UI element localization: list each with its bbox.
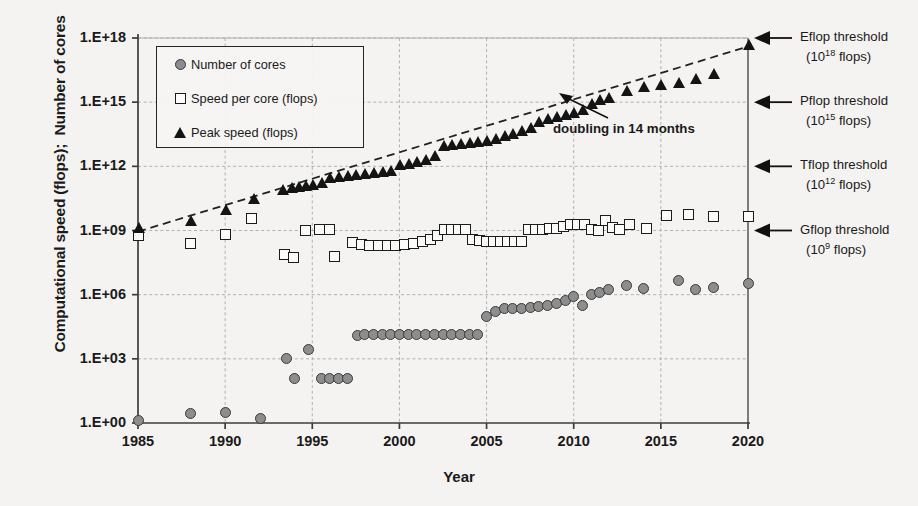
chart-canvas: Computational speed (flops); Number of c… [0, 0, 918, 506]
data-point-circle-gray [743, 278, 754, 289]
x-tick-label: 2020 [718, 433, 778, 449]
x-tick-label: 2000 [369, 433, 429, 449]
data-point-square-open [614, 224, 625, 235]
data-point-circle-gray [220, 407, 231, 418]
x-axis-title: Year [0, 468, 918, 485]
data-point-square-open [288, 252, 299, 263]
data-point-circle-gray [303, 344, 314, 355]
legend-label-number-of-cores: Number of cores [191, 57, 286, 72]
chart-legend: Number of cores Speed per core (flops) P… [156, 46, 364, 148]
data-point-square-open [516, 236, 527, 247]
y-tick-label: 1.E+12 [48, 157, 126, 173]
data-point-triangle-filled [603, 92, 615, 103]
threshold-label-pflop: Pflop threshold(1015 flops) [800, 92, 888, 129]
data-point-square-open [324, 224, 335, 235]
legend-label-speed-per-core: Speed per core (flops) [191, 91, 318, 106]
y-tick-label: 1.E+09 [48, 222, 126, 238]
data-point-triangle-filled [133, 222, 145, 233]
y-tick-label: 1.E+06 [48, 286, 126, 302]
threshold-label-pflop-value: (1015 flops) [800, 109, 888, 129]
data-point-circle-gray [708, 282, 719, 293]
data-point-triangle-filled [621, 85, 633, 96]
threshold-label-tflop-value: (1012 flops) [800, 173, 887, 193]
threshold-label-gflop-title: Gflop threshold [800, 221, 889, 238]
data-point-square-open [246, 213, 257, 224]
data-point-triangle-filled [185, 215, 197, 226]
x-tick-label: 2015 [631, 433, 691, 449]
threshold-label-tflop-title: Tflop threshold [800, 156, 887, 173]
circle-marker-icon [171, 59, 189, 70]
threshold-label-gflop: Gflop threshold(109 flops) [800, 221, 889, 258]
threshold-label-pflop-title: Pflop threshold [800, 92, 888, 109]
data-point-circle-gray [621, 280, 632, 291]
data-point-circle-gray [281, 353, 292, 364]
y-tick-label: 1.E+18 [48, 29, 126, 45]
data-point-square-open [624, 219, 635, 230]
triangle-marker-icon [171, 127, 189, 138]
threshold-label-gflop-value: (109 flops) [800, 238, 889, 258]
legend-label-peak-speed: Peak speed (flops) [191, 125, 298, 140]
data-point-square-open [683, 209, 694, 220]
data-point-triangle-filled [673, 77, 685, 88]
data-point-circle-gray [673, 275, 684, 286]
data-point-square-open [743, 211, 754, 222]
x-tick-label: 1985 [108, 433, 168, 449]
data-point-triangle-filled [429, 150, 441, 161]
square-marker-icon [171, 93, 189, 104]
data-point-square-open [593, 225, 604, 236]
data-point-circle-gray [255, 413, 266, 424]
data-point-square-open [661, 210, 672, 221]
threshold-label-eflop-value: (1018 flops) [800, 45, 888, 65]
threshold-label-eflop: Eflop threshold(1018 flops) [800, 28, 888, 65]
data-point-square-open [314, 224, 325, 235]
chart-svg-layer [0, 0, 918, 506]
data-point-circle-gray [690, 284, 701, 295]
x-tick-label: 2010 [544, 433, 604, 449]
data-point-circle-gray [185, 408, 196, 419]
data-point-square-open [220, 229, 231, 240]
x-tick-label: 2005 [457, 433, 517, 449]
data-point-triangle-filled [638, 81, 650, 92]
data-point-square-open [300, 225, 311, 236]
threshold-label-eflop-title: Eflop threshold [800, 28, 888, 45]
data-point-circle-gray [342, 373, 353, 384]
trendline-annotation-label: doubling in 14 months [553, 121, 695, 136]
data-point-square-open [185, 238, 196, 249]
legend-item-number-of-cores: Number of cores [157, 47, 363, 81]
data-point-circle-gray [133, 415, 144, 426]
data-point-square-open [708, 211, 719, 222]
y-tick-label: 1.E+00 [48, 414, 126, 430]
data-point-circle-gray [577, 300, 588, 311]
data-point-square-open [641, 223, 652, 234]
legend-item-speed-per-core: Speed per core (flops) [157, 81, 363, 115]
data-point-circle-gray [289, 373, 300, 384]
legend-item-peak-speed: Peak speed (flops) [157, 115, 363, 149]
data-point-triangle-filled [708, 68, 720, 79]
data-point-square-open [329, 251, 340, 262]
y-tick-label: 1.E+03 [48, 350, 126, 366]
x-tick-label: 1990 [195, 433, 255, 449]
data-point-circle-gray [603, 284, 614, 295]
data-point-triangle-filled [220, 204, 232, 215]
y-tick-label: 1.E+15 [48, 93, 126, 109]
x-tick-label: 1995 [282, 433, 342, 449]
threshold-label-tflop: Tflop threshold(1012 flops) [800, 156, 887, 193]
data-point-triangle-filled [743, 39, 755, 50]
y-axis-title: Computational speed (flops); Number of c… [51, 0, 69, 394]
data-point-circle-gray [638, 283, 649, 294]
data-point-triangle-filled [655, 79, 667, 90]
data-point-triangle-filled [690, 73, 702, 84]
data-point-triangle-filled [248, 193, 260, 204]
